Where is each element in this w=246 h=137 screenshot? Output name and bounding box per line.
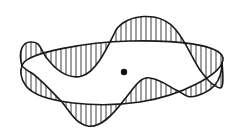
wave-ellipse-diagram: [0, 0, 246, 137]
diagram-canvas: [0, 0, 246, 137]
center-dot: [121, 69, 127, 75]
